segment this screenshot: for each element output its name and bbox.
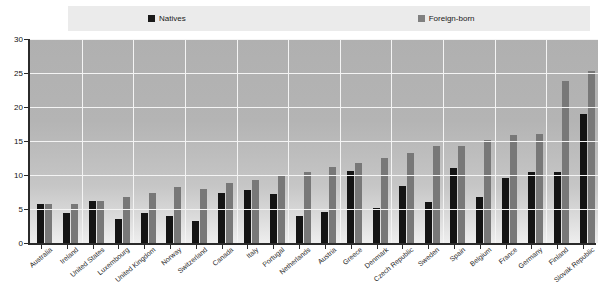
bar-natives: [63, 213, 70, 243]
y-axis-tick-label: 30: [14, 35, 23, 44]
bar-natives: [141, 213, 148, 243]
bar-natives: [218, 193, 225, 243]
x-axis-tick-label: Germany: [517, 246, 544, 270]
bar-foreign-born: [200, 189, 207, 243]
bar-natives: [270, 194, 277, 243]
y-axis-tick-label: 20: [14, 103, 23, 112]
x-axis-tick-label: Canada: [211, 246, 234, 267]
bar-group: [368, 158, 394, 243]
bar-group: [316, 167, 342, 243]
x-axis-tick-label: Australia: [28, 246, 53, 269]
y-axis-tick-label: 25: [14, 69, 23, 78]
bar-group: [471, 140, 497, 243]
x-axis-tick-label: Sweden: [417, 246, 441, 268]
gridline-horizontal: [30, 73, 598, 74]
bar-natives: [115, 219, 122, 243]
bar-foreign-born: [458, 146, 465, 243]
legend-item-natives: Natives: [148, 15, 186, 23]
bar-natives: [554, 172, 561, 243]
legend-swatch-icon: [148, 15, 155, 22]
bar-natives: [192, 221, 199, 243]
bar-group: [445, 146, 471, 243]
bar-natives: [89, 201, 96, 243]
y-axis-tick-label: 15: [14, 137, 23, 146]
bar-natives: [296, 216, 303, 243]
bar-foreign-born: [381, 158, 388, 243]
gridline-vertical: [237, 39, 238, 243]
bar-group: [58, 204, 84, 243]
x-axis-tick-label: Austria: [316, 246, 337, 265]
gridline-vertical: [495, 39, 496, 243]
x-axis-tick-label: Italy: [246, 246, 260, 260]
bar-natives: [321, 212, 328, 243]
y-axis-tick-label: 10: [14, 171, 23, 180]
bar-natives: [502, 178, 509, 243]
x-axis-tick-label: Greece: [341, 246, 363, 266]
bar-group: [161, 187, 187, 243]
gridline-vertical: [288, 39, 289, 243]
legend-swatch-icon: [418, 15, 425, 22]
legend-label-natives: Natives: [159, 15, 186, 23]
gridline-vertical: [133, 39, 134, 243]
gridline-vertical: [391, 39, 392, 243]
x-axis-tick-label: Portugal: [261, 246, 285, 268]
gridline-vertical: [546, 39, 547, 243]
y-axis-tick-label: 5: [19, 205, 23, 214]
bar-group: [109, 197, 135, 243]
bar-foreign-born: [174, 187, 181, 243]
gridline-vertical: [185, 39, 186, 243]
bar-foreign-born: [588, 71, 595, 243]
x-axis-labels: AustraliaIrelandUnited StatesLuxembourgU…: [28, 246, 602, 294]
bar-natives: [347, 171, 354, 243]
bar-foreign-born: [536, 134, 543, 243]
gridline-horizontal: [30, 39, 598, 40]
gridline-horizontal: [30, 175, 598, 176]
chart-root: Natives Foreign-born 051015202530 Austra…: [0, 0, 602, 294]
bar-foreign-born: [562, 81, 569, 243]
bar-foreign-born: [304, 172, 311, 243]
bar-natives: [399, 186, 406, 243]
gridline-vertical: [340, 39, 341, 243]
x-axis-tick-label: France: [497, 246, 518, 265]
bar-natives: [373, 208, 380, 243]
x-axis-tick-label: Spain: [448, 246, 466, 263]
bar-natives: [528, 172, 535, 243]
x-axis-tick-label: Finland: [548, 246, 570, 266]
legend-item-foreign-born: Foreign-born: [418, 15, 475, 23]
gridline-horizontal: [30, 107, 598, 108]
bar-foreign-born: [407, 153, 414, 243]
bar-group: [548, 81, 574, 243]
bar-natives: [450, 168, 457, 243]
y-axis-tick-label: 0: [19, 239, 23, 248]
bar-foreign-born: [71, 204, 78, 243]
bar-foreign-born: [252, 180, 259, 243]
bar-group: [290, 172, 316, 243]
bar-group: [213, 183, 239, 243]
gridline-vertical: [443, 39, 444, 243]
bar-group: [187, 189, 213, 243]
bar-natives: [166, 216, 173, 243]
bar-foreign-born: [484, 140, 491, 243]
legend-label-foreign-born: Foreign-born: [429, 15, 475, 23]
plot-area: [28, 39, 598, 243]
bar-foreign-born: [226, 183, 233, 243]
bar-natives: [580, 114, 587, 243]
gridline-horizontal: [30, 141, 598, 142]
bar-natives: [476, 197, 483, 243]
bar-group: [239, 180, 265, 243]
x-axis-tick-label: Belgium: [468, 246, 492, 268]
gridline-vertical: [82, 39, 83, 243]
bar-group: [135, 193, 161, 243]
bar-group: [393, 153, 419, 243]
bar-foreign-born: [97, 201, 104, 243]
bar-natives: [244, 190, 251, 243]
x-axis-tick-label: Norway: [160, 246, 183, 267]
bar-group: [419, 146, 445, 243]
bar-group: [574, 71, 600, 243]
bar-group: [84, 201, 110, 243]
bar-group: [523, 134, 549, 243]
bar-foreign-born: [329, 167, 336, 243]
bar-foreign-born: [510, 135, 517, 243]
bar-foreign-born: [433, 146, 440, 243]
chart-legend: Natives Foreign-born: [68, 6, 590, 31]
